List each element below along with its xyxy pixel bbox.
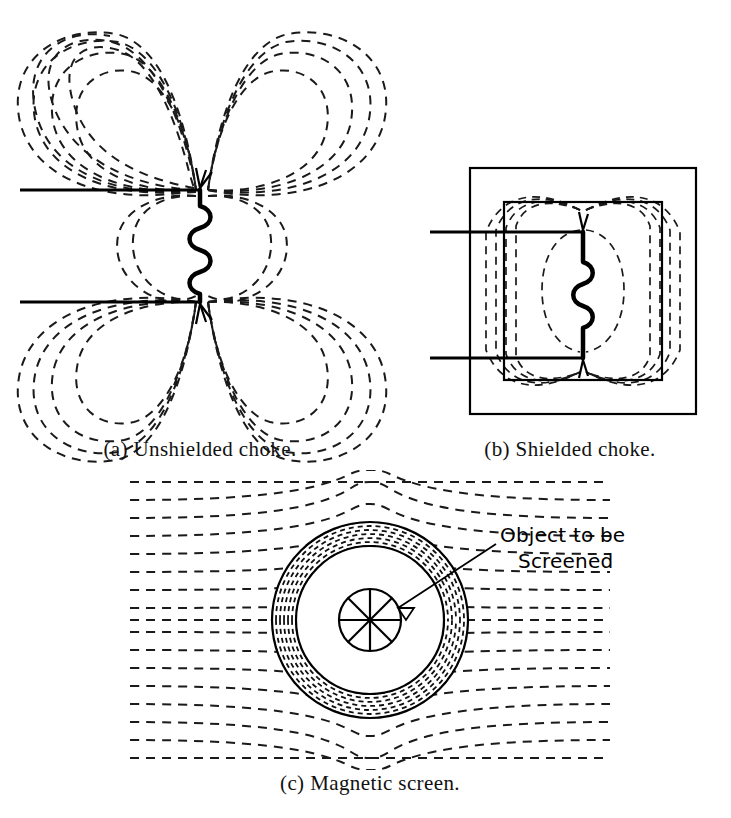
flux-loops-right <box>208 195 287 302</box>
flux-loop-outer-upper-left <box>18 32 196 195</box>
panel-shielded-choke <box>420 140 720 440</box>
caption-magnetic-screen: (c) Magnetic screen. <box>130 771 610 796</box>
choke-leads <box>20 190 199 302</box>
unshielded-choke-drawing <box>0 10 400 430</box>
choke-coil <box>190 190 211 302</box>
flux-loop-inner-left <box>117 195 196 302</box>
choke-coil <box>573 232 593 358</box>
object-callout-leader <box>398 544 496 620</box>
figure-sheet: (a) Unshielded choke. <box>0 0 731 818</box>
caption-shielded-choke: (b) Shielded choke. <box>420 437 720 462</box>
caption-unshielded-choke: (a) Unshielded choke. <box>0 437 400 462</box>
flux-convergence-bottom <box>579 360 588 378</box>
magnetic-screen-drawing: Object to be Screened <box>130 470 610 770</box>
screened-object <box>339 589 401 651</box>
object-callout-line1: Object to be <box>500 523 625 547</box>
panel-unshielded-choke <box>0 10 400 430</box>
shielded-choke-drawing <box>420 140 720 440</box>
flux-loops-left <box>33 34 196 193</box>
flux-convergence-top <box>579 212 588 230</box>
flux-loop-outer-upper-right <box>208 32 386 195</box>
panel-magnetic-screen: Object to be Screened <box>130 470 610 770</box>
object-callout-line2: Screened <box>518 549 613 573</box>
